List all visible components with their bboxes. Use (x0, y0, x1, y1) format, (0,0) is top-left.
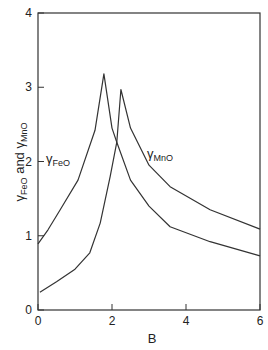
x-tick-label: 6 (257, 314, 264, 328)
series-label-mno: γMnO (147, 146, 173, 163)
y-tick-label: 0 (25, 303, 32, 317)
series-label-feo: γFeO (46, 151, 70, 168)
x-tick-label: 0 (35, 314, 42, 328)
y-axis-label: γFeO and γMnO (12, 123, 29, 202)
curve-mno (40, 90, 260, 293)
plot-border (38, 13, 260, 310)
x-axis-label: B (148, 331, 157, 346)
y-tick-label: 4 (25, 6, 32, 20)
data-curves (38, 74, 260, 292)
x-tick-label: 4 (183, 314, 190, 328)
plot-frame (38, 13, 260, 310)
chart: 024601234 B γFeO and γMnO γFeO γMnO (0, 0, 268, 350)
y-tick-label: 1 (25, 229, 32, 243)
y-tick-label: 3 (25, 80, 32, 94)
x-tick-label: 2 (109, 314, 116, 328)
